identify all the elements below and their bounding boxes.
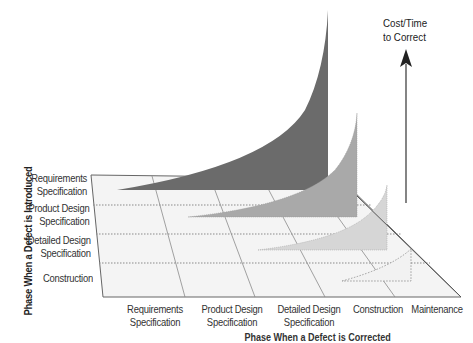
row-label-product-design: Product Design Specification <box>28 202 89 228</box>
col-label-maintenance: Maintenance <box>400 303 473 316</box>
col-label-line: Product Design <box>195 303 269 316</box>
row-label-line: Specification <box>28 215 89 228</box>
col-label-line: Maintenance <box>400 303 473 316</box>
col-label-line: Specification <box>272 316 346 329</box>
col-label-requirements: Requirements Specification <box>118 303 192 329</box>
row-label-line: Specification <box>31 185 87 198</box>
col-label-product-design: Product Design Specification <box>195 303 269 329</box>
col-label-line: Specification <box>195 316 269 329</box>
row-label-line: Specification <box>28 247 91 260</box>
row-label-requirements: Requirements Specification <box>31 172 87 198</box>
row-label-line: Detailed Design <box>28 234 91 247</box>
row-label-detailed-design: Detailed Design Specification <box>28 234 91 260</box>
row-label-line: Construction <box>43 272 93 285</box>
z-axis-label-text: Cost/Time to Correct <box>383 16 431 44</box>
z-axis-label: Cost/Time to Correct <box>383 16 431 44</box>
col-label-detailed-design: Detailed Design Specification <box>272 303 346 329</box>
area-requirements-introduced <box>117 10 328 190</box>
col-label-line: Specification <box>118 316 192 329</box>
row-label-line: Requirements <box>31 172 87 185</box>
row-label-line: Product Design <box>28 202 89 215</box>
row-label-construction: Construction <box>43 272 93 285</box>
x-axis-title: Phase When a Defect is Corrected <box>244 331 375 343</box>
col-label-line: Detailed Design <box>272 303 346 316</box>
col-label-line: Requirements <box>118 303 192 316</box>
